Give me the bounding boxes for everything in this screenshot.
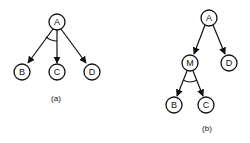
caption-b: (b) <box>202 124 212 133</box>
edge-a-A-D <box>61 29 86 63</box>
svg-text:M: M <box>186 58 194 68</box>
svg-text:C: C <box>54 67 61 77</box>
and-arc-a <box>46 37 57 41</box>
edge-a-A-B <box>28 29 53 63</box>
edge-b-M-C <box>193 71 203 96</box>
edge-b-A-M <box>194 25 205 54</box>
diagram-a: A B C D (a) <box>14 14 100 103</box>
node-a-C: C <box>49 64 65 80</box>
and-arc-b <box>183 80 197 82</box>
svg-text:D: D <box>226 58 233 68</box>
node-b-B: B <box>166 97 182 113</box>
edge-b-A-D <box>213 25 225 54</box>
diagram-b: A M D B C (b) <box>166 10 237 133</box>
caption-a: (a) <box>51 94 61 103</box>
svg-text:A: A <box>206 13 212 23</box>
svg-text:B: B <box>19 67 25 77</box>
diagram-canvas: A B C D (a) A M D <box>0 0 250 143</box>
svg-text:B: B <box>171 100 177 110</box>
edge-b-M-B <box>177 71 187 96</box>
node-b-A: A <box>201 10 217 26</box>
svg-text:A: A <box>54 17 60 27</box>
svg-text:D: D <box>89 67 96 77</box>
svg-text:C: C <box>203 100 210 110</box>
node-a-B: B <box>14 64 30 80</box>
node-b-M: M <box>182 55 198 71</box>
node-a-A: A <box>49 14 65 30</box>
node-b-C: C <box>198 97 214 113</box>
node-b-D: D <box>221 55 237 71</box>
node-a-D: D <box>84 64 100 80</box>
